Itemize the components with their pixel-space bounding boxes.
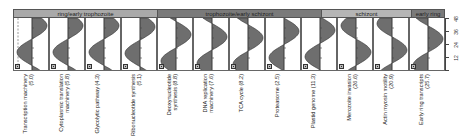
panel-label: DNA replication machinery (7.6) [193, 74, 229, 136]
profile-panel [157, 18, 193, 71]
expression-profile [266, 18, 300, 70]
panel-label-text: Deoxynucleotide synthesis (8.8) [166, 74, 179, 136]
panel-tag-icon [51, 64, 56, 69]
expression-profile [194, 18, 228, 70]
panel-label-text: Merozoite invasion (26.6) [346, 74, 359, 136]
expression-profile [50, 18, 84, 70]
expression-profile [374, 18, 408, 70]
panel-label: Merozoite invasion (26.6) [337, 74, 373, 136]
profile-panel [85, 18, 121, 71]
profile-panel [13, 18, 49, 71]
profile-panel [229, 18, 265, 71]
panel-tag-icon [303, 64, 308, 69]
expression-profile [122, 18, 156, 70]
expression-profile [158, 18, 192, 70]
panel-label: Cytoplasmic translation machinery (5.8) [49, 74, 85, 136]
stage-early-ring: early ring [411, 9, 445, 18]
panel-label-text: Ribonucleotide synthesis (5.1) [130, 74, 143, 136]
expression-profile [338, 18, 372, 70]
profile-panel [265, 18, 301, 71]
panel-label-text: Glycolytic pathway (4.3) [94, 74, 100, 136]
y-axis: 48 36 24 12 [445, 18, 470, 71]
panel-label-text: Transcription machinery (5.0) [22, 74, 35, 136]
panel-tag-icon [123, 64, 128, 69]
panel-label: Early ring transcripts (25.7) [409, 74, 445, 136]
y-tick [445, 70, 449, 71]
panel-tag-icon [87, 64, 92, 69]
expression-profile [14, 18, 48, 70]
panel-label: Proteasome (2.5) [265, 74, 301, 136]
y-tick [445, 31, 449, 32]
y-tick-label: 12 [453, 53, 459, 63]
panel-label-text: Proteasome (2.5) [274, 74, 280, 136]
panel-label-text: Actin myosin motility (20.9) [382, 74, 395, 136]
panel-label: TCA cycle (8.2) [229, 74, 265, 136]
profile-panel [373, 18, 409, 71]
panel-label-text: DNA replication machinery (7.6) [202, 74, 215, 136]
y-tick-label: 36 [453, 27, 459, 37]
y-tick [445, 57, 449, 58]
panel-label: Ribonucleotide synthesis (5.1) [121, 74, 157, 136]
y-tick [445, 44, 449, 45]
expression-profile [410, 18, 444, 70]
panel-tag-icon [267, 64, 272, 69]
stage-trophozoite-early-schizont: trophozoite/early schizont [157, 9, 322, 18]
stage-schizont: schizont [321, 9, 412, 18]
profile-panel [301, 18, 337, 71]
panel-label: Deoxynucleotide synthesis (8.8) [157, 74, 193, 136]
profile-panel [409, 18, 445, 71]
expression-profile [230, 18, 264, 70]
profile-panel [121, 18, 157, 71]
panel-tag-icon [159, 64, 164, 69]
y-tick-label: 48 [453, 14, 459, 24]
panel-tag-icon [195, 64, 200, 69]
profile-panel [337, 18, 373, 71]
panel-label-text: Early ring transcripts (25.7) [418, 74, 431, 136]
panel-tag-icon [375, 64, 380, 69]
panel-label: Actin myosin motility (20.9) [373, 74, 409, 136]
panel-tag-icon [339, 64, 344, 69]
panel-label-text: TCA cycle (8.2) [238, 74, 244, 136]
profile-panel [193, 18, 229, 71]
panel-tag-icon [15, 64, 20, 69]
y-tick [445, 18, 449, 19]
expression-profile [86, 18, 120, 70]
panel-tag-icon [411, 64, 416, 69]
expression-profile [302, 18, 336, 70]
panel-label: Plastid genome (11.3) [301, 74, 337, 136]
panel-label-text: Cytoplasmic translation machinery (5.8) [58, 74, 71, 136]
panel-label: Glycolytic pathway (4.3) [85, 74, 121, 136]
panel-label-text: Plastid genome (11.3) [310, 74, 316, 136]
panel-tag-icon [231, 64, 236, 69]
stage-ring-early-trophozoite: ring/early trophozoite [13, 9, 158, 18]
panel-label: Transcription machinery (5.0) [13, 74, 49, 136]
y-tick-label: 24 [453, 40, 459, 50]
profile-panel [49, 18, 85, 71]
